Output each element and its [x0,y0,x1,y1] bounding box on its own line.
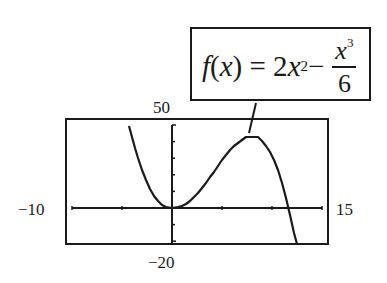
ymin-label: −20 [148,254,175,271]
formula-f: f [202,50,210,83]
xmin-label: −10 [18,201,45,218]
numerator-exponent-3: 3 [347,35,354,50]
xmax-label: 15 [336,201,353,218]
formula-open-paren: ( [210,50,220,83]
fraction-denominator: 6 [338,68,351,97]
formula-x-squared-base: x [288,50,301,83]
formula-x: x [220,50,233,83]
formula-fraction: x3 6 [332,36,356,97]
fraction-numerator: x3 [332,36,356,68]
function-callout-box: f(x) = 2x2 − x3 6 [190,27,371,101]
function-formula: f(x) = 2x2 − x3 6 [202,29,356,103]
viewing-window-frame [66,119,328,244]
numerator-x: x [335,36,347,65]
formula-minus: − [308,50,324,83]
formula-exponent-2: 2 [301,58,309,75]
function-curve [129,126,297,244]
ymax-label: 50 [153,99,170,116]
formula-eq-2: ) = 2 [233,50,288,83]
